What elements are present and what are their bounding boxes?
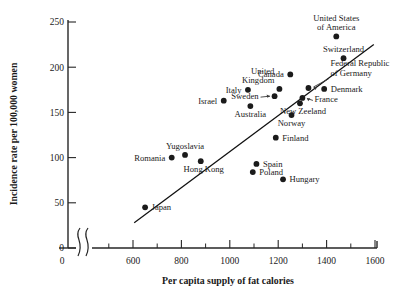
data-point-label: Denmark	[331, 84, 364, 94]
data-point-label: Finland	[282, 133, 309, 143]
data-point	[182, 152, 188, 158]
data-point	[142, 204, 148, 210]
data-point	[272, 93, 278, 99]
data-point	[333, 34, 339, 40]
x-tick-label: 800	[174, 256, 189, 266]
data-point	[306, 85, 312, 91]
data-point-label: Hong Kong	[184, 164, 225, 174]
y-axis-tick-labels: 050100150200250	[50, 17, 65, 253]
leader-arrowhead	[267, 95, 270, 98]
x-tick-label: 1000	[220, 256, 239, 266]
data-point-label: New Zeeland	[280, 106, 327, 116]
data-point	[287, 72, 293, 78]
data-point	[280, 176, 286, 182]
data-point	[273, 135, 279, 141]
x-axis-title: Per capita supply of fat calories	[162, 275, 294, 286]
data-point-label: Japan	[152, 202, 172, 212]
data-point-label: Sweden	[231, 91, 259, 101]
data-point	[169, 155, 175, 161]
data-point-label: Canada	[258, 69, 284, 79]
y-axis-ticks	[68, 22, 76, 248]
data-point-label: Australia	[235, 109, 267, 119]
data-point-label: Yugoslavia	[166, 141, 204, 151]
data-point-label: Switzerland	[323, 44, 365, 54]
data-point-label: Hungary	[290, 174, 321, 184]
y-tick-label: 150	[50, 108, 65, 118]
data-point	[254, 161, 260, 167]
data-point-label: Israel	[198, 96, 218, 106]
data-point-label: Spain	[263, 159, 283, 169]
x-tick-label: 1200	[269, 256, 288, 266]
y-tick-label: 50	[55, 198, 65, 208]
y-tick-label: 100	[50, 153, 65, 163]
x-tick-label: 1600	[366, 256, 385, 266]
scatter-plot-figure: 050100150200250 6008001000120014001600 0…	[0, 0, 419, 300]
chart-canvas: 050100150200250 6008001000120014001600 0…	[0, 0, 419, 300]
y-tick-label: 0	[59, 243, 64, 253]
x-axis	[59, 241, 377, 248]
x-tick-label: 1400	[317, 256, 336, 266]
data-point	[300, 95, 306, 101]
data-point-label: Romania	[134, 153, 165, 163]
data-point-label-group: JapanRomaniaYugoslaviaHong KongIsraelIta…	[134, 13, 389, 212]
data-point	[221, 98, 227, 104]
axis-break-icon	[78, 228, 89, 256]
x-tick-label: 600	[126, 256, 141, 266]
data-point-label: Federal Republicof Germany	[330, 58, 389, 78]
y-tick-label: 200	[50, 63, 65, 73]
data-point-label: Norway	[278, 118, 306, 128]
data-point	[321, 86, 327, 92]
leader-line	[313, 79, 328, 87]
data-point	[277, 86, 283, 92]
data-point-label: United Statesof America	[313, 13, 360, 33]
data-point	[250, 169, 256, 175]
x-axis-origin-label: 0	[60, 256, 65, 266]
data-point-label: France	[314, 94, 338, 104]
x-axis-tick-labels: 6008001000120014001600	[126, 256, 385, 266]
y-tick-label: 250	[50, 17, 65, 27]
y-axis-title: Incidence rate per 100,000 women	[8, 62, 19, 205]
